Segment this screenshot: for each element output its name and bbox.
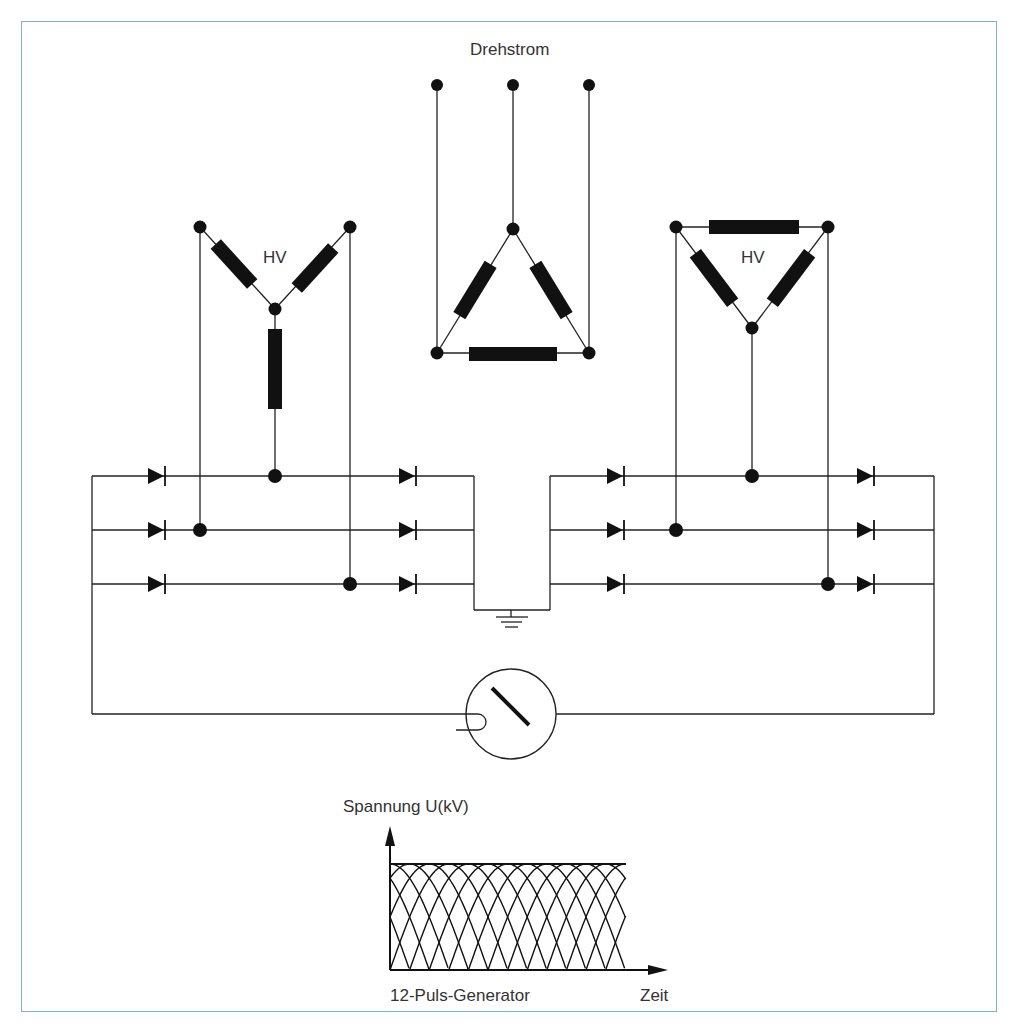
chart-xlabel: Zeit	[640, 986, 668, 1006]
voltage-chart	[385, 826, 668, 975]
label-hv-left: HV	[263, 248, 287, 268]
chart-ylabel: Spannung U(kV)	[343, 797, 469, 817]
label-hv-right: HV	[741, 248, 765, 268]
circuit-diagram	[0, 0, 1011, 1030]
title-drehstrom: Drehstrom	[470, 40, 549, 60]
chart-caption: 12-Puls-Generator	[390, 986, 530, 1006]
